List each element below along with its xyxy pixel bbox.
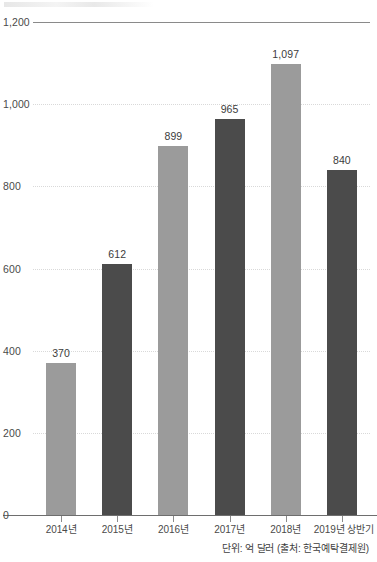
x-axis-tick-label: 2017년 <box>202 521 258 536</box>
y-axis-tick-label: 0 <box>3 509 31 521</box>
x-axis-tick-label: 2014년 <box>33 521 89 536</box>
bar-value-label: 1,097 <box>272 48 299 60</box>
y-axis-tick-label: 600 <box>3 263 31 275</box>
gridline-800 <box>33 186 370 187</box>
gridline-400 <box>33 351 370 352</box>
bar-value-label: 370 <box>52 347 70 359</box>
y-axis-tick-label: 1,000 <box>3 98 31 110</box>
gridline-1200 <box>33 22 370 23</box>
y-axis-tick-label: 400 <box>3 345 31 357</box>
gridline-1000 <box>33 104 370 105</box>
x-axis-tick-label: 2016년 <box>145 521 201 536</box>
gridline-600 <box>33 269 370 270</box>
bar: 370 <box>46 363 76 515</box>
bar: 899 <box>158 146 188 515</box>
bar-value-label: 965 <box>221 103 239 115</box>
y-axis-tick-label: 1,200 <box>3 16 31 28</box>
bar-chart: 3706128999651,097840 02004006008001,0001… <box>0 0 377 562</box>
x-axis-tick-label: 2019년 상반기 <box>314 521 370 536</box>
x-axis-baseline <box>3 515 377 516</box>
bar-value-label: 612 <box>108 248 126 260</box>
y-axis-tick-label: 800 <box>3 180 31 192</box>
bar: 612 <box>102 264 132 515</box>
bar-value-label: 899 <box>164 130 182 142</box>
bar: 965 <box>215 119 245 515</box>
x-axis-tick-label: 2018년 <box>258 521 314 536</box>
bar: 840 <box>327 170 357 515</box>
plot-area: 3706128999651,097840 <box>33 22 370 515</box>
source-note: 단위: 억 달러 (출처: 한국예탁결제원) <box>222 540 369 555</box>
x-axis-tick-label: 2015년 <box>89 521 145 536</box>
bar-value-label: 840 <box>333 154 351 166</box>
bar: 1,097 <box>271 64 301 515</box>
gridline-200 <box>33 433 370 434</box>
clipped-title-artifact <box>4 2 154 7</box>
y-axis-tick-label: 200 <box>3 427 31 439</box>
